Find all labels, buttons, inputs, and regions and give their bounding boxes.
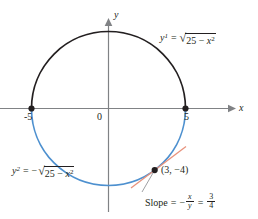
slope-equals-first: = <box>171 198 177 208</box>
upper-eq-radicand-lead: 25 − <box>186 35 207 46</box>
x-axis-arrowhead <box>228 105 236 113</box>
circle-tangent-figure: y x 0 -5 5 y1 = √ 25 − x2 y2 = − √ 25 − … <box>0 0 258 219</box>
x-axis-label: x <box>239 103 243 113</box>
lower-eq-radicand-exponent: 2 <box>70 168 74 176</box>
point-marker-tangency <box>152 167 158 173</box>
upper-eq-radical: √ 25 − x2 <box>180 33 216 46</box>
lower-curve-equation: y2 = − √ 25 − x2 <box>12 166 74 179</box>
lower-eq-lhs-subscript: 2 <box>16 166 20 173</box>
tick-label-minus-five: -5 <box>24 112 32 122</box>
plot-canvas <box>0 0 258 219</box>
tick-label-five: 5 <box>184 112 189 122</box>
slope-value-numerator: 3 <box>207 193 215 201</box>
slope-annotation: Slope = − x y = 3 4 <box>145 194 216 211</box>
tangency-point-label: (3, −4) <box>161 165 188 175</box>
origin-label: 0 <box>97 112 102 122</box>
lower-eq-minus-sign: − <box>32 166 38 176</box>
lower-eq-radical: √ 25 − x2 <box>38 166 74 179</box>
upper-eq-radicand-exponent: 2 <box>211 35 215 43</box>
upper-eq-equals: = <box>171 33 177 43</box>
y-axis-label: y <box>114 10 118 20</box>
lower-eq-radicand-lead: 25 − <box>45 168 66 179</box>
lower-eq-equals: = <box>23 166 29 176</box>
slope-fraction-denominator: y <box>186 201 194 210</box>
lower-eq-radicand: 25 − x2 <box>44 166 75 179</box>
slope-minus-sign: − <box>179 198 185 208</box>
slope-word: Slope <box>145 198 168 208</box>
slope-fraction-numerator: x <box>186 193 194 201</box>
slope-fraction-three-fourths: 3 4 <box>207 193 215 210</box>
y-axis-arrowhead <box>105 18 113 26</box>
upper-curve-equation: y1 = √ 25 − x2 <box>160 33 216 46</box>
upper-eq-radicand: 25 − x2 <box>185 33 216 46</box>
slope-value-denominator: 4 <box>207 201 215 210</box>
upper-eq-lhs-subscript: 1 <box>164 33 168 40</box>
slope-equals-second: = <box>198 198 204 208</box>
slope-fraction-x-over-y: x y <box>186 193 194 210</box>
